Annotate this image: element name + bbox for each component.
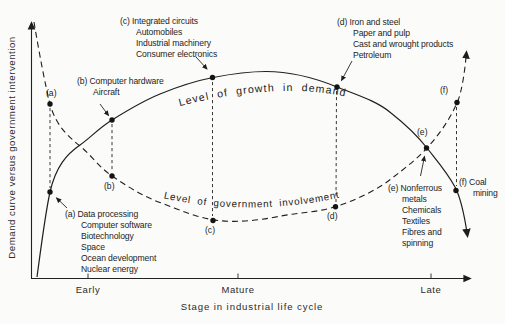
annotation-a-list: (a) Data processing Computer software Bi… xyxy=(65,209,156,274)
arrow-to-b xyxy=(100,104,109,116)
annotation-line: Consumer electronics xyxy=(120,49,217,60)
annotation-line: Ocean development xyxy=(65,253,156,264)
demand-curve-title-text: Level of growth in demand xyxy=(177,81,348,108)
annotation-line: Aircraft xyxy=(77,87,164,98)
dot-c-government xyxy=(210,218,215,223)
annotation-line: mining xyxy=(459,188,498,199)
y-axis-label: Demand curve versus government intervent… xyxy=(6,18,17,278)
annotation-line: Space xyxy=(65,242,156,253)
annotation-e-list: (e) Nonferrous metals Chemicals Textiles… xyxy=(388,183,442,248)
annotation-d-list: (d) Iron and steel Paper and pulp Cast a… xyxy=(337,17,453,61)
annotation-line: Cast and wrought products xyxy=(337,39,453,50)
dot-b-government xyxy=(109,173,114,178)
dot-a-demand xyxy=(47,189,52,194)
demand-curve-title: Level of growth in demand xyxy=(177,81,348,108)
marker-a: (a) xyxy=(46,88,57,98)
annotation-line: spinning xyxy=(388,238,442,249)
annotation-line: Computer software xyxy=(65,220,156,231)
arrow-to-e xyxy=(421,157,425,177)
dot-c-demand xyxy=(210,75,215,80)
annotation-line: Petroleum xyxy=(337,50,453,61)
arrow-to-d xyxy=(342,61,353,81)
annotation-line: Automobiles xyxy=(120,27,217,38)
annotation-line: Fibres and xyxy=(388,227,442,238)
annotation-line: Nuclear energy xyxy=(65,264,156,275)
dot-b-demand xyxy=(109,117,114,122)
marker-e: (e) xyxy=(417,127,428,137)
annotation-b-list: (b) Computer hardware Aircraft xyxy=(77,76,164,98)
dot-a-government xyxy=(47,101,52,106)
annotation-line: (d) Iron and steel xyxy=(337,17,453,28)
annotation-line: Biotechnology xyxy=(65,231,156,242)
marker-c: (c) xyxy=(205,225,215,235)
figure-canvas: Level of growth in demand Level of gover… xyxy=(0,0,505,324)
annotation-line: (e) Nonferrous xyxy=(388,183,442,194)
annotation-line: Paper and pulp xyxy=(337,28,453,39)
annotation-line: Chemicals xyxy=(388,205,442,216)
annotation-f-list: (f) Coal mining xyxy=(459,177,498,199)
x-axis-label: Stage in industrial life cycle xyxy=(181,301,324,312)
arrow-to-a xyxy=(57,198,68,208)
marker-b: (b) xyxy=(104,181,115,191)
dot-e-crossing xyxy=(424,145,429,150)
x-tick-mature: Mature xyxy=(221,284,254,295)
annotation-line: Industrial machinery xyxy=(120,38,217,49)
x-tick-early: Early xyxy=(76,284,101,295)
dot-f-demand xyxy=(453,188,458,193)
government-curve-title-text: Level of government involvement xyxy=(163,189,340,210)
annotation-line: (c) Integrated circuits xyxy=(120,16,217,27)
annotation-line: metals xyxy=(388,194,442,205)
annotation-line: (f) Coal xyxy=(459,177,498,188)
marker-d: (d) xyxy=(327,211,338,221)
dot-f-government xyxy=(454,100,459,105)
dot-d-government xyxy=(333,204,338,209)
government-curve-title: Level of government involvement xyxy=(163,189,340,210)
annotation-c-list: (c) Integrated circuits Automobiles Indu… xyxy=(120,16,217,60)
x-tick-late: Late xyxy=(421,284,442,295)
annotation-line: (b) Computer hardware xyxy=(77,76,164,87)
annotation-line: Textiles xyxy=(388,216,442,227)
connector-d xyxy=(336,91,337,202)
marker-f: (f) xyxy=(440,85,448,95)
annotation-line: (a) Data processing xyxy=(65,209,156,220)
